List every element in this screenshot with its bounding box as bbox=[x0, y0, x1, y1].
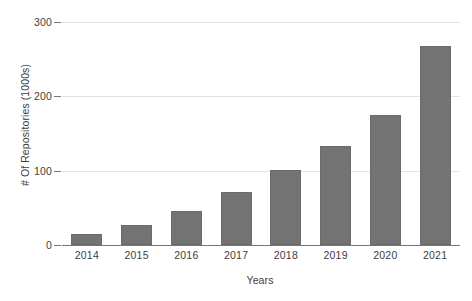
x-tick-label: 2017 bbox=[224, 249, 248, 261]
bar bbox=[420, 46, 451, 245]
bars-layer bbox=[62, 22, 460, 245]
x-axis-ticks: 20142015201620172018201920202021 bbox=[62, 249, 460, 265]
y-axis-ticks: 0100200300 bbox=[22, 22, 52, 245]
bar-chart: # Of Repositories (1000s) 0100200300 201… bbox=[0, 0, 472, 301]
bar bbox=[270, 170, 301, 245]
bar bbox=[71, 234, 102, 245]
bar bbox=[221, 192, 252, 245]
x-tick-label: 2014 bbox=[75, 249, 99, 261]
y-tick-label: 0 bbox=[22, 239, 52, 251]
x-tick-label: 2020 bbox=[373, 249, 397, 261]
y-tick-label: 300 bbox=[22, 16, 52, 28]
x-tick-label: 2021 bbox=[423, 249, 447, 261]
y-tick-mark bbox=[54, 96, 61, 97]
y-tick-label: 100 bbox=[22, 165, 52, 177]
x-axis-line bbox=[62, 245, 460, 246]
x-axis-title: Years bbox=[62, 274, 458, 286]
bar bbox=[171, 211, 202, 245]
bar bbox=[370, 115, 401, 245]
y-tick-mark bbox=[54, 22, 61, 23]
y-tick-mark bbox=[54, 171, 61, 172]
x-tick-label: 2016 bbox=[174, 249, 198, 261]
y-tick-mark bbox=[54, 245, 61, 246]
bar bbox=[121, 225, 152, 245]
y-tick-label: 200 bbox=[22, 90, 52, 102]
x-tick-label: 2019 bbox=[324, 249, 348, 261]
x-tick-label: 2015 bbox=[125, 249, 149, 261]
x-tick-label: 2018 bbox=[274, 249, 298, 261]
bar bbox=[320, 146, 351, 245]
